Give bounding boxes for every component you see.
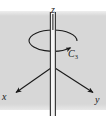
- z-axis-label: z: [51, 5, 55, 15]
- rotation-ellipse-front-arc: [29, 41, 71, 51]
- y-axis-arrow: [55, 68, 93, 93]
- x-axis-arrow: [16, 68, 51, 93]
- y-axis-label: y: [95, 95, 99, 105]
- diagram-vector-layer: [0, 0, 106, 116]
- figure-container: z x y C3: [0, 0, 106, 116]
- c3-symbol: C: [68, 48, 75, 59]
- x-axis-label: x: [2, 92, 6, 102]
- z-axis-rod: [50, 12, 55, 116]
- c3-rotation-label: C3: [68, 49, 78, 60]
- c3-order: 3: [75, 53, 78, 60]
